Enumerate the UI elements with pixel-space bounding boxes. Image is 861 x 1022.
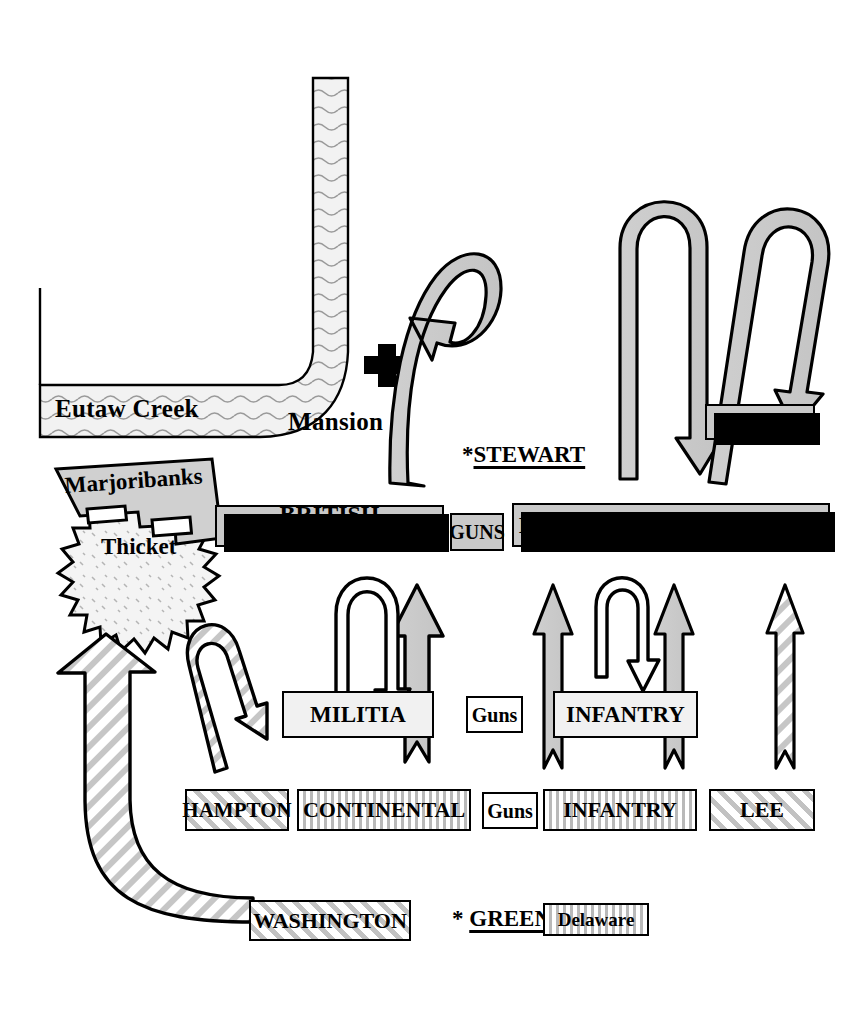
unit-label-loyalist-british-inf: LOYALIST & BRITISH INF.: [519, 513, 824, 537]
unit-label-hampton: HAMPTON: [182, 800, 291, 821]
creek-shape: [40, 78, 348, 437]
creek-label: Eutaw Creek: [55, 396, 199, 421]
mansion-label: Mansion: [288, 409, 383, 434]
unit-label-militia: MILITIA: [310, 703, 406, 726]
unit-label-washington: WASHINGTON: [253, 910, 407, 932]
lee-cavalry-arrow: [767, 585, 803, 768]
thicket-label: Thicket: [101, 535, 176, 558]
unit-label-continental: CONTINENTAL: [303, 799, 465, 821]
unit-box-infantry-front[interactable]: INFANTRY: [553, 691, 698, 738]
unit-box-infantry-second[interactable]: INFANTRY: [543, 789, 697, 831]
commander-stewart: *STEWART: [462, 443, 585, 466]
unit-label-infantry-second: INFANTRY: [563, 799, 677, 821]
unit-box-coffin[interactable]: COFFIN: [705, 404, 815, 440]
unit-label-guns-second: Guns: [487, 801, 533, 821]
hampton-cavalry-hook-arrow: [187, 625, 267, 772]
american-advance-arrow-2: [534, 585, 572, 768]
unit-box-hampton[interactable]: HAMPTON: [185, 789, 289, 831]
unit-box-continental[interactable]: CONTINENTAL: [297, 789, 471, 831]
unit-box-delaware[interactable]: Delaware: [543, 903, 649, 936]
unit-box-guns-center[interactable]: Guns: [466, 696, 523, 733]
commander-stewart-star: *: [462, 442, 474, 467]
american-hook-arrow-infantry: [596, 578, 659, 691]
american-advance-arrow-3: [655, 585, 693, 768]
unit-label-delaware: Delaware: [558, 910, 635, 929]
unit-label-guns-center: Guns: [472, 705, 518, 725]
unit-box-militia[interactable]: MILITIA: [282, 691, 434, 738]
unit-box-lee[interactable]: LEE: [709, 789, 815, 831]
unit-label-coffin: COFFIN: [716, 411, 804, 434]
unit-box-guns-second[interactable]: Guns: [482, 792, 538, 829]
battle-map-canvas: Eutaw Creek Mansion Thicket Marjoribanks…: [0, 0, 861, 1022]
washington-cavalry-sweep-arrow: [58, 634, 253, 922]
unit-box-guns-british[interactable]: GUNS: [450, 513, 504, 551]
unit-label-guns-british: GUNS: [449, 522, 505, 542]
unit-label-british-infantry: BRITISH INFANTRY: [217, 502, 442, 550]
unit-box-loyalist-british-inf[interactable]: LOYALIST & BRITISH INF.: [512, 503, 830, 547]
unit-label-infantry-front: INFANTRY: [566, 703, 685, 726]
unit-box-british-infantry[interactable]: BRITISH INFANTRY: [215, 505, 444, 547]
unit-box-washington[interactable]: WASHINGTON: [249, 900, 411, 941]
commander-stewart-name: STEWART: [474, 442, 586, 467]
commander-greene-star: *: [452, 906, 469, 931]
unit-label-lee: LEE: [740, 799, 784, 821]
